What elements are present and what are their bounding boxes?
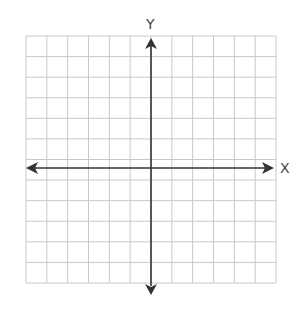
x-axis-label: X [280, 160, 290, 176]
coordinate-plane: X Y [0, 0, 301, 310]
y-axis [145, 38, 157, 295]
x-axis [26, 162, 274, 174]
y-axis-label: Y [145, 16, 155, 32]
